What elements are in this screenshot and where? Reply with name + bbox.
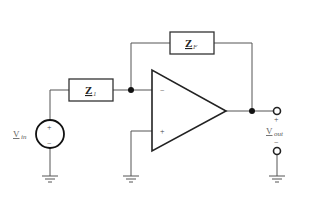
zf-subscript: F bbox=[192, 43, 198, 51]
vout-plus-sign: + bbox=[274, 115, 279, 124]
circuit-diagram: Z 1 Z F − + + − V in + − V out bbox=[0, 0, 309, 197]
ground-icon bbox=[123, 176, 139, 182]
z1-symbol: Z bbox=[85, 84, 92, 96]
junction-dot-input bbox=[128, 87, 134, 93]
output-terminal-positive bbox=[274, 108, 281, 115]
opamp-noninverting-sign: + bbox=[160, 127, 165, 136]
vin-symbol: V bbox=[13, 129, 20, 139]
voltage-source: + − V in bbox=[13, 120, 64, 148]
source-minus-sign: − bbox=[47, 139, 52, 148]
wire-feedback-right bbox=[214, 43, 252, 111]
output-terminal-negative bbox=[274, 148, 281, 155]
opamp-inverting-sign: − bbox=[160, 86, 165, 95]
impedance-z1: Z 1 bbox=[69, 79, 113, 101]
ground-icon bbox=[42, 176, 58, 182]
opamp: − + bbox=[152, 70, 226, 151]
vout-subscript: out bbox=[274, 130, 284, 138]
ground-icon bbox=[269, 176, 285, 182]
vout-minus-sign: − bbox=[274, 138, 279, 147]
junction-dot-output bbox=[249, 108, 255, 114]
z1-subscript: 1 bbox=[93, 90, 97, 98]
output-terminals: + − V out bbox=[266, 108, 284, 155]
impedance-zf: Z F bbox=[170, 32, 214, 54]
vout-symbol: V bbox=[266, 126, 273, 136]
vin-subscript: in bbox=[21, 133, 27, 141]
zf-symbol: Z bbox=[185, 37, 192, 49]
wire-noninverting-to-ground bbox=[131, 131, 152, 176]
wire-source-to-z1 bbox=[50, 90, 69, 120]
source-plus-sign: + bbox=[47, 123, 52, 132]
